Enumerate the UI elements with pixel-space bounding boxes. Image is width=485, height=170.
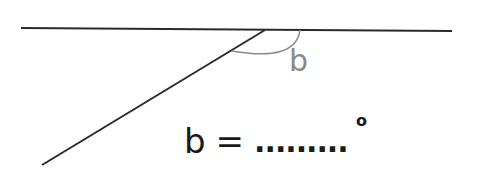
angle-label: b <box>289 46 308 76</box>
degree-symbol: o <box>356 113 367 129</box>
answer-blank[interactable]: ......... <box>254 124 348 159</box>
answer-line: b=......... <box>184 124 348 158</box>
horizontal-line <box>21 28 452 31</box>
answer-variable: b <box>184 121 206 161</box>
equals-sign: = <box>216 121 245 161</box>
